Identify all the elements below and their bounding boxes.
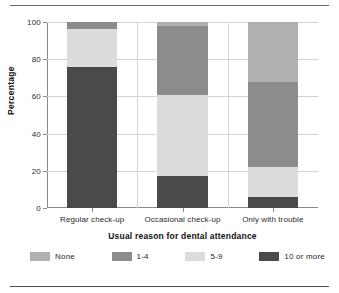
bar-segment[interactable] bbox=[248, 197, 298, 208]
legend-swatch bbox=[112, 252, 132, 261]
bar-segment[interactable] bbox=[248, 167, 298, 197]
legend-item[interactable]: 10 or more bbox=[259, 252, 325, 261]
bottom-divider-rule bbox=[10, 286, 329, 287]
legend-swatch bbox=[30, 252, 50, 261]
bar-group[interactable] bbox=[248, 22, 298, 208]
y-tick-mark bbox=[43, 134, 47, 135]
legend-item[interactable]: 5-9 bbox=[185, 252, 222, 261]
bar-stack bbox=[67, 22, 117, 208]
legend-label: 10 or more bbox=[284, 252, 325, 261]
bar-segment[interactable] bbox=[157, 176, 207, 208]
category-separator bbox=[228, 22, 229, 208]
top-divider-rule bbox=[10, 5, 329, 6]
y-tick-mark bbox=[43, 208, 47, 209]
y-tick-label: 20 bbox=[32, 166, 41, 175]
category-separator bbox=[137, 22, 138, 208]
legend-item[interactable]: None bbox=[30, 252, 75, 261]
x-tick-label: Occasional check-up bbox=[144, 215, 220, 224]
bar-segment[interactable] bbox=[157, 95, 207, 177]
x-axis-title: Usual reason for dental attendance bbox=[47, 231, 318, 241]
bar-segment[interactable] bbox=[248, 22, 298, 82]
x-tick-label: Regular check-up bbox=[60, 215, 124, 224]
bar-segment[interactable] bbox=[67, 67, 117, 208]
x-tick-mark bbox=[273, 208, 274, 212]
y-tick-label: 80 bbox=[32, 55, 41, 64]
legend-swatch bbox=[259, 252, 279, 261]
y-tick-label: 100 bbox=[27, 18, 41, 27]
bar-stack bbox=[248, 22, 298, 208]
y-tick-label: 40 bbox=[32, 129, 41, 138]
legend-swatch bbox=[185, 252, 205, 261]
x-tick-label: Only with trouble bbox=[242, 215, 303, 224]
bar-segment[interactable] bbox=[248, 82, 298, 168]
y-tick-mark bbox=[43, 22, 47, 23]
x-tick-mark bbox=[183, 208, 184, 212]
y-tick-mark bbox=[43, 96, 47, 97]
bar-group[interactable] bbox=[67, 22, 117, 208]
y-tick-mark bbox=[43, 171, 47, 172]
bar-segment[interactable] bbox=[67, 22, 117, 29]
bar-segment[interactable] bbox=[67, 29, 117, 66]
bar-stack bbox=[157, 22, 207, 208]
y-tick-label: 60 bbox=[32, 92, 41, 101]
legend-label: None bbox=[55, 252, 75, 261]
stacked-bar-chart-figure: Percentage 100806040200 Regular check-up… bbox=[0, 0, 339, 293]
bar-segment[interactable] bbox=[157, 26, 207, 95]
legend-label: 1-4 bbox=[137, 252, 149, 261]
bar-group[interactable] bbox=[157, 22, 207, 208]
legend-item[interactable]: 1-4 bbox=[112, 252, 149, 261]
y-tick-label: 0 bbox=[36, 204, 41, 213]
chart-legend: None1-45-910 or more bbox=[30, 252, 325, 261]
y-axis-title: Percentage bbox=[6, 66, 16, 115]
legend-label: 5-9 bbox=[210, 252, 222, 261]
plot-area: 100806040200 Regular check-upOccasional … bbox=[47, 22, 318, 208]
y-tick-mark bbox=[43, 59, 47, 60]
x-tick-mark bbox=[92, 208, 93, 212]
